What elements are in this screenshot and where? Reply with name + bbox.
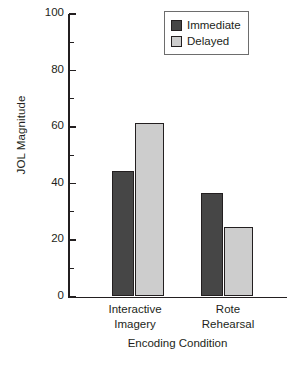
legend-swatch-immediate-icon bbox=[171, 20, 182, 31]
y-tick-label: 20 bbox=[28, 232, 64, 244]
y-tick-major bbox=[69, 126, 76, 127]
y-axis-title: JOL Magnitude bbox=[15, 75, 27, 195]
y-tick-label: 80 bbox=[28, 63, 64, 75]
y-tick-minor bbox=[69, 211, 74, 212]
legend-item-delayed: Delayed bbox=[171, 33, 241, 49]
bar-immediate-0 bbox=[112, 171, 134, 297]
y-tick-label: 100 bbox=[28, 6, 64, 18]
legend-label-immediate: Immediate bbox=[187, 19, 241, 31]
y-tick-label: 60 bbox=[28, 119, 64, 131]
legend: Immediate Delayed bbox=[164, 11, 249, 55]
x-category-label-line: Rote bbox=[178, 302, 278, 317]
y-tick-major bbox=[69, 13, 76, 14]
x-category-label: InteractiveImagery bbox=[85, 302, 185, 331]
y-tick-label: 0 bbox=[28, 289, 64, 301]
bar-delayed-0 bbox=[135, 123, 164, 297]
x-axis-title: Encoding Condition bbox=[68, 337, 287, 349]
legend-label-delayed: Delayed bbox=[187, 35, 229, 47]
x-axis-line bbox=[68, 297, 287, 299]
y-tick-minor bbox=[69, 98, 74, 99]
y-tick-major bbox=[69, 183, 76, 184]
x-category-label-line: Rehearsal bbox=[178, 317, 278, 332]
y-tick-minor bbox=[69, 155, 74, 156]
y-tick-major bbox=[69, 239, 76, 240]
y-tick-major bbox=[69, 70, 76, 71]
y-axis-line bbox=[68, 14, 70, 298]
y-tick-major bbox=[69, 296, 76, 297]
bar-immediate-1 bbox=[201, 193, 223, 296]
x-category-label: RoteRehearsal bbox=[178, 302, 278, 331]
bar-delayed-1 bbox=[224, 227, 253, 296]
legend-swatch-delayed-icon bbox=[171, 36, 182, 47]
bar-chart-figure: JOL Magnitude 020406080100 InteractiveIm… bbox=[0, 0, 299, 370]
y-tick-label: 40 bbox=[28, 176, 64, 188]
x-category-label-line: Interactive bbox=[85, 302, 185, 317]
y-tick-minor bbox=[69, 42, 74, 43]
x-category-label-line: Imagery bbox=[85, 317, 185, 332]
y-tick-minor bbox=[69, 268, 74, 269]
legend-item-immediate: Immediate bbox=[171, 17, 241, 33]
